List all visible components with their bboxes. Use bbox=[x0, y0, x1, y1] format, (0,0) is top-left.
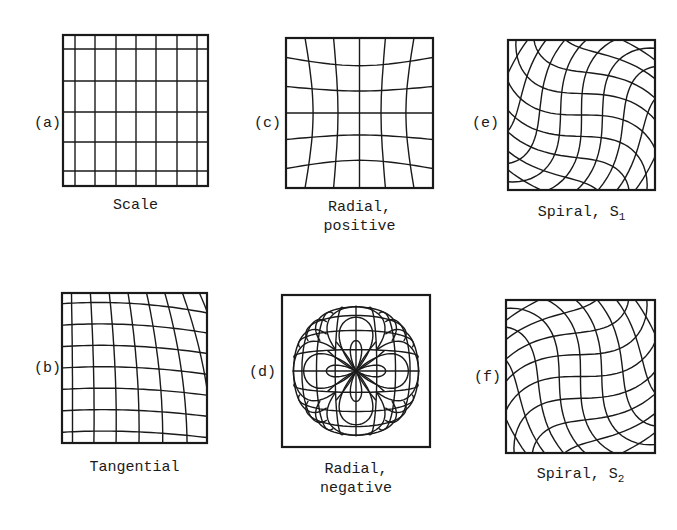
caption-spiral-s2: Spiral, S2 bbox=[506, 465, 655, 485]
caption-subscript: 2 bbox=[618, 473, 625, 485]
caption-line: Spiral, S2 bbox=[506, 465, 655, 485]
caption-text: Spiral, S bbox=[537, 466, 618, 483]
spiral-s2-grid-diagram bbox=[0, 0, 677, 530]
